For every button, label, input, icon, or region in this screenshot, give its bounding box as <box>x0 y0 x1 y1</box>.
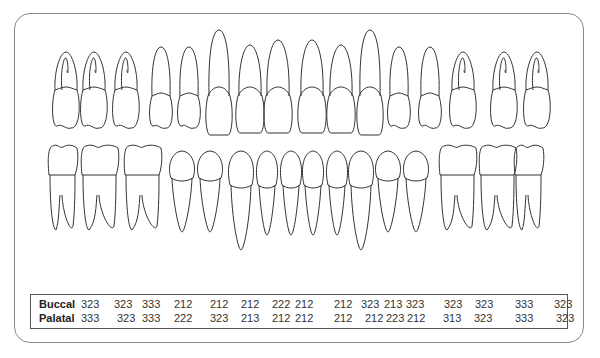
cell-value: 323 <box>81 298 99 310</box>
cell-value: 323 <box>114 298 132 310</box>
cell-value: 323 <box>554 298 572 310</box>
cell-value: 323 <box>117 312 135 324</box>
cell-value: 212 <box>272 312 290 324</box>
cell-value: 222 <box>272 298 290 310</box>
cell-value: 212 <box>210 298 228 310</box>
cell-value: 323 <box>556 312 574 324</box>
cell-value: 333 <box>142 312 160 324</box>
cell-value: 213 <box>241 312 259 324</box>
cell-value: 212 <box>295 312 313 324</box>
cell-value: 323 <box>444 298 462 310</box>
cell-value: 333 <box>81 312 99 324</box>
root-table: Buccal 323323333212212212222212212323213… <box>30 294 568 329</box>
cell-value: 323 <box>406 298 424 310</box>
cell-value: 212 <box>295 298 313 310</box>
cell-value: 212 <box>365 312 383 324</box>
cell-value: 212 <box>407 312 425 324</box>
cell-value: 333 <box>515 298 533 310</box>
cell-value: 323 <box>475 298 493 310</box>
cell-value: 222 <box>174 312 192 324</box>
cell-value: 213 <box>384 298 402 310</box>
cell-value: 323 <box>210 312 228 324</box>
cell-value: 223 <box>386 312 404 324</box>
cell-value: 212 <box>241 298 259 310</box>
cell-value: 212 <box>334 298 352 310</box>
lower-teeth <box>48 145 544 250</box>
row-label: Palatal <box>39 312 74 324</box>
row-label: Buccal <box>39 298 75 310</box>
cell-value: 333 <box>142 298 160 310</box>
cell-value: 212 <box>334 312 352 324</box>
upper-teeth <box>53 30 551 135</box>
cell-value: 212 <box>174 298 192 310</box>
cell-value: 313 <box>443 312 461 324</box>
cell-value: 323 <box>474 312 492 324</box>
cell-value: 333 <box>515 312 533 324</box>
cell-value: 323 <box>361 298 379 310</box>
